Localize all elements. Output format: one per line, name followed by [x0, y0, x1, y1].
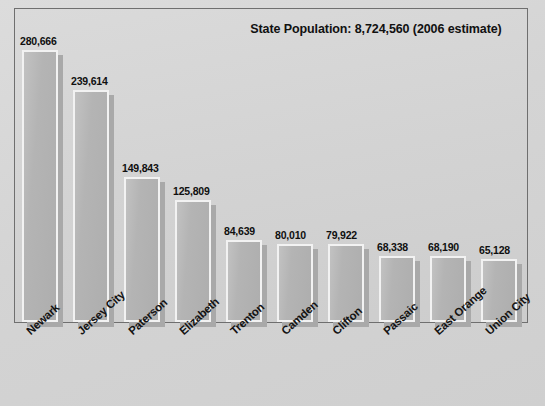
bar-value-label: 239,614 — [71, 75, 108, 87]
bar: 239,614 — [73, 90, 109, 322]
bar-body — [124, 177, 160, 322]
bar: 280,666 — [22, 50, 58, 322]
bar-value-label: 125,809 — [173, 185, 210, 197]
bar-value-label: 80,010 — [275, 229, 306, 241]
x-axis-labels: NewarkJersey CityPatersonElizabethTrento… — [15, 324, 527, 406]
bar-body — [22, 50, 58, 322]
bars-container: 280,666239,614149,843125,80984,63980,010… — [15, 9, 527, 322]
bar-value-label: 149,843 — [122, 162, 159, 174]
bar: 149,843 — [124, 177, 160, 322]
bar-value-label: 65,128 — [479, 244, 510, 256]
bar-value-label: 68,338 — [377, 241, 408, 253]
bar-chart: State Population: 8,724,560 (2006 estima… — [0, 0, 545, 406]
bar-value-label: 84,639 — [224, 225, 255, 237]
bar-body — [73, 90, 109, 322]
bar-value-label: 68,190 — [428, 241, 459, 253]
bar-value-label: 79,922 — [326, 229, 357, 241]
bar-value-label: 280,666 — [20, 35, 57, 47]
